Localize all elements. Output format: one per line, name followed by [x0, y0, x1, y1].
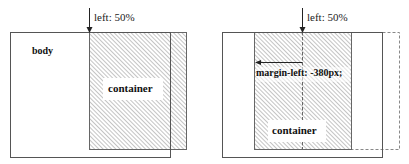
left-down-arrow-icon — [87, 8, 93, 33]
right-margin-label: margin-left: -380px; — [256, 67, 342, 78]
right-container-label: container — [272, 124, 317, 136]
left-body-label: body — [32, 45, 53, 56]
left-arrow-label: left: 50% — [94, 11, 135, 23]
right-arrow-label: left: 50% — [307, 11, 348, 23]
right-down-arrow-icon — [300, 8, 306, 33]
diagram-svg — [0, 0, 409, 164]
diagram-canvas: left: 50% body container left: 50% margi… — [0, 0, 409, 164]
left-diagram — [11, 8, 187, 158]
left-container-label: container — [108, 82, 153, 94]
